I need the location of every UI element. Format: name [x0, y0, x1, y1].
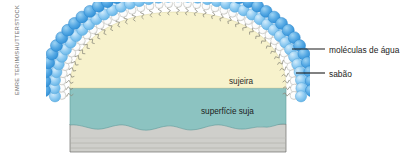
illustration-canvas: EMRE TERIM/SHUTTERSTOCK	[0, 0, 416, 162]
soap-head	[174, 2, 182, 8]
diagram-svg	[46, 2, 310, 158]
callout-label-water-molecules: moléculas de água	[329, 45, 399, 55]
image-credit: EMRE TERIM/SHUTTERSTOCK	[14, 0, 20, 105]
soap-head	[183, 2, 191, 8]
soap-head	[165, 2, 173, 8]
dirt-label: sujeira	[229, 77, 253, 86]
micelle-diagram: sujeira superfície suja	[46, 2, 310, 158]
water-molecule	[295, 91, 306, 102]
callout-label-soap: sabão	[329, 69, 352, 79]
dirty-surface-label: superfície suja	[201, 107, 254, 116]
